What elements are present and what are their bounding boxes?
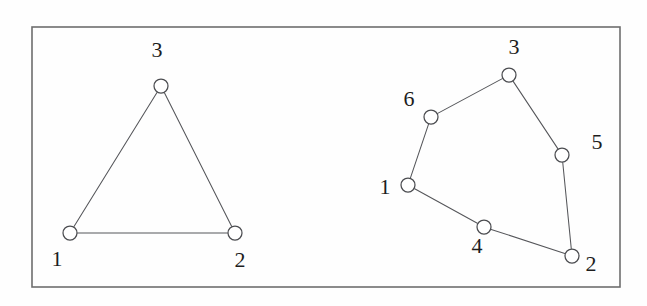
graph-edge-3-5 — [513, 81, 558, 148]
hexagon-cycle-graph-nodes — [401, 68, 579, 263]
node-label-4: 4 — [472, 235, 483, 257]
node-label-5: 5 — [592, 131, 603, 153]
graph-edge-6-3 — [438, 79, 503, 114]
node-label-1: 1 — [380, 176, 391, 198]
graph-node-4 — [477, 220, 491, 234]
graph-node-6 — [424, 110, 438, 124]
node-label-3: 3 — [509, 36, 520, 58]
triangle-graph-nodes — [63, 79, 242, 240]
graph-node-5 — [555, 148, 569, 162]
figure-canvas — [0, 0, 647, 306]
graph-edge-3-2 — [164, 93, 231, 226]
graph-node-1 — [401, 178, 415, 192]
figure-border — [32, 27, 620, 287]
graph-node-3 — [154, 79, 168, 93]
node-label-6: 6 — [404, 88, 415, 110]
node-label-3: 3 — [152, 39, 163, 61]
graph-edge-1-3 — [74, 92, 157, 226]
graph-edge-2-4 — [491, 229, 565, 253]
graph-node-2 — [228, 226, 242, 240]
graph-edge-1-6 — [410, 124, 428, 178]
node-label-2: 2 — [235, 249, 246, 271]
figure-root: 123123456 — [0, 0, 647, 306]
nodes-layer — [63, 68, 579, 263]
graph-edge-5-2 — [563, 163, 572, 249]
edges-layer — [74, 79, 571, 254]
graph-edge-4-1 — [415, 189, 478, 224]
node-label-2: 2 — [586, 253, 597, 275]
graph-node-1 — [63, 226, 77, 240]
graph-node-2 — [565, 249, 579, 263]
node-label-1: 1 — [52, 248, 63, 270]
graph-node-3 — [502, 68, 516, 82]
triangle-graph-edges — [74, 92, 232, 233]
